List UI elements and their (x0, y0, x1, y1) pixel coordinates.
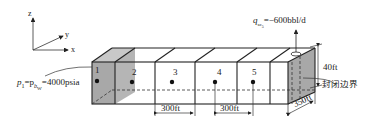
pressure-annotation: p1=pbW=4000psia (17, 78, 79, 91)
dx1-dimension: 300ft (161, 104, 180, 113)
closed-boundary-label: 封闭边界 (322, 80, 358, 89)
rate-annotation: qsc5=−600bbl/d (253, 16, 306, 29)
block-3-label: 3 (173, 68, 178, 77)
height-dimension: 40ft (323, 63, 338, 72)
axis-triad (33, 18, 68, 50)
axis-x-label: x (71, 46, 75, 54)
dx2-dimension: 300ft (220, 104, 239, 113)
axis-z-label: z (28, 10, 32, 18)
reservoir-diagram (0, 0, 375, 131)
block-4-label: 4 (217, 68, 222, 77)
block-2-label: 2 (132, 68, 137, 77)
axis-y-label: y (65, 31, 69, 39)
block-1-label: 1 (95, 66, 100, 75)
block-5-label: 5 (252, 68, 257, 77)
